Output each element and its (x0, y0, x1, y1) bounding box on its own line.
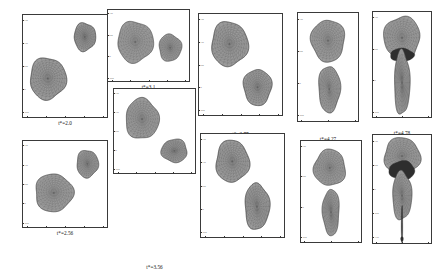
droplet-mesh-group (297, 12, 359, 122)
lower-droplet (319, 67, 341, 113)
droplet-mesh-group (300, 140, 362, 243)
droplet-mesh-group (200, 133, 285, 238)
pinched-bead (401, 237, 404, 242)
droplet-mesh-group (113, 88, 196, 174)
droplet-outline (401, 237, 404, 242)
droplet-mesh-group (198, 13, 283, 116)
droplet-mesh-group (107, 9, 190, 82)
panel-caption: t*=2.56 (22, 230, 108, 236)
panel-t3p1: -0.500.51.0 -1.0-0.500.51.0 t*=3.1 (107, 9, 190, 82)
panel-t2p56: -0.500.51.01.5 -1.0-0.500.51.0 t*=2.56 (22, 140, 108, 228)
upper-right-droplet (74, 23, 96, 52)
lower-right-droplet (245, 183, 270, 230)
upper-right-droplet (77, 151, 99, 179)
droplet-mesh-group (372, 11, 432, 118)
panel-t4p56: -0.500.51.0 -0.500.5 t*=4.56 (300, 140, 362, 243)
droplet-canvas (22, 140, 108, 228)
upper-droplet (310, 20, 345, 62)
droplet-outline (245, 183, 270, 230)
droplet-canvas (113, 88, 196, 174)
lower-droplet (322, 189, 339, 235)
lower-left-droplet (36, 174, 74, 212)
upper-left-droplet (126, 97, 159, 138)
panel-t4p78: -0.500.51.0 -0.500.5 t*=4.78 (372, 11, 432, 118)
right-droplet (159, 34, 182, 61)
droplet-mesh-group (372, 134, 432, 244)
lower-left-droplet (30, 58, 66, 100)
panel-caption: t*=3.56 (113, 264, 196, 269)
left-droplet (118, 21, 154, 63)
panel-t4p0: -0.500.51.01.5 -1.0-0.500.51.0 t*=4.0 (200, 133, 285, 238)
droplet-canvas (22, 14, 108, 118)
panel-t3p56: -0.500.51.01.5 -1.0-0.500.51.0 t*=3.56 (113, 88, 196, 174)
droplet-canvas (372, 11, 432, 118)
upper-droplet (313, 149, 346, 185)
lower-right-droplet (161, 139, 187, 163)
droplet-mesh-group (22, 140, 108, 228)
lower-right-droplet (243, 70, 272, 106)
panel-caption: t*=2.0 (22, 120, 108, 126)
droplet-canvas (372, 134, 432, 244)
panel-t4p27: -0.500.51.0 -0.500.5 t*=4.27 (297, 12, 359, 122)
droplet-canvas (200, 133, 285, 238)
droplet-mesh-group (22, 14, 108, 118)
droplet-canvas (297, 12, 359, 122)
droplet-canvas (300, 140, 362, 243)
panel-t3p77: -0.500.51.01.5 -1.0-0.500.51.0 t*=3.77 (198, 13, 283, 116)
upper-left-droplet (212, 22, 249, 67)
panel-t2p0: -0.500.51.01.5 -1.0-0.500.51.0 t*=2.0 (22, 14, 108, 118)
droplet-canvas (107, 9, 190, 82)
upper-left-droplet (216, 140, 250, 182)
droplet-canvas (198, 13, 283, 116)
droplet-collision-figure: -0.500.51.01.5 -1.0-0.500.51.0 t*=2.0 -0… (0, 0, 437, 269)
panel-t5p0: -1.0-0.500.51.0 -0.500.5 t*=5.0 (372, 134, 432, 244)
